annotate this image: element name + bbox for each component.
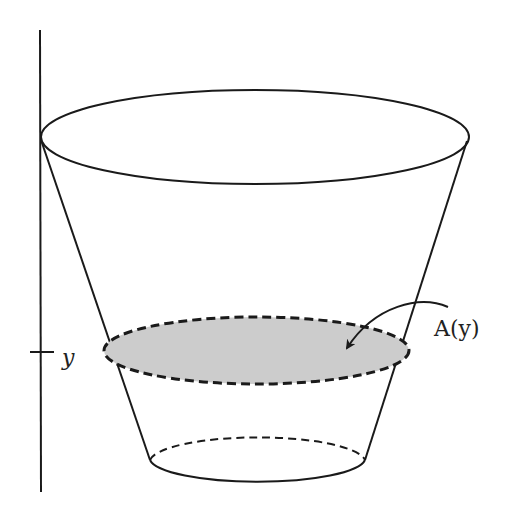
- top-rim-ellipse: [41, 90, 469, 184]
- height-label: y: [61, 345, 75, 370]
- frustum-diagram: y A(y): [0, 0, 512, 506]
- bottom-back-edge: [150, 437, 365, 460]
- cross-section-label: A(y): [433, 316, 479, 341]
- left-wall: [41, 140, 150, 460]
- right-wall: [365, 141, 467, 460]
- vertical-axis: [40, 30, 41, 492]
- bottom-front-edge: [150, 460, 365, 482]
